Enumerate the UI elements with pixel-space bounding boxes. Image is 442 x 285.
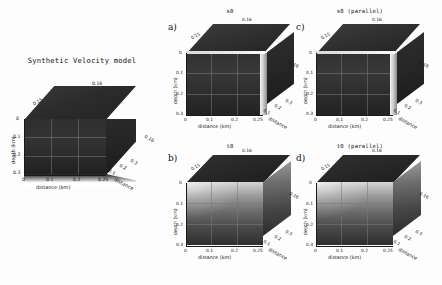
y-tick-label: 0.3: [176, 111, 183, 116]
y-tick-label: 0.1: [176, 70, 183, 75]
y-axis-label: depth (km): [173, 77, 178, 104]
y-axis-label: depth (km): [173, 208, 178, 235]
x-axis-line: [24, 175, 106, 176]
x-tick-label: 0.2: [231, 117, 238, 122]
x-tick-label: 0.2: [361, 248, 368, 253]
y-tick-label: 0.1: [306, 70, 313, 75]
x-tick-label: 0: [314, 248, 317, 253]
x-tick-label: 0.2: [231, 248, 238, 253]
x-axis-line: [186, 246, 263, 247]
y-tick-label: 0: [309, 50, 312, 55]
x-axis-label: distance (km): [198, 124, 231, 129]
top-tick-label-right: 0.16: [242, 148, 252, 153]
top-tick-label-right: 0.16: [242, 17, 252, 22]
top-tick-label-right: 0.16: [372, 148, 382, 153]
panel-title-s0-parallel: s0 (parallel): [290, 8, 430, 14]
panel-letter-a: a): [168, 22, 177, 32]
y-axis-line: [186, 53, 187, 115]
gridline: [211, 182, 212, 245]
cube-notch-seam: [260, 53, 267, 115]
x-axis-label: distance (km): [198, 255, 231, 260]
x-tick-label: 0.1: [336, 248, 343, 253]
y-axis-label: depth (km): [303, 208, 308, 235]
cube-front-face: [186, 182, 263, 245]
y-tick-label: 0.1: [306, 201, 313, 206]
top-tick-label-right: 0.16: [92, 81, 102, 86]
y-axis-label: depth (km): [10, 136, 16, 164]
gridline: [51, 119, 52, 175]
cube-front-face: [316, 182, 393, 245]
panel-title-s0: s0: [160, 8, 300, 14]
panel-letter-c: c): [296, 22, 305, 32]
x-tick-label: 0.25: [383, 248, 393, 253]
panel-title-t0: t0: [160, 143, 300, 149]
gridline: [341, 53, 342, 115]
gridline: [316, 224, 393, 225]
panel-title-velocity-model: Synthetic Velocity model: [6, 56, 158, 65]
x-tick-label: 0.1: [206, 117, 213, 122]
x-axis-line: [316, 115, 393, 116]
panel-s0: a) s0 0.16 0.15 0.16 0 0.1 0.2 0.3 depth…: [160, 8, 300, 143]
gridline: [24, 156, 106, 157]
figure-canvas: Synthetic Velocity model 0.16 0.15 0.16: [0, 0, 442, 285]
gridline: [341, 182, 342, 245]
x-tick-label: 0.2: [361, 117, 368, 122]
x-tick-label: 0.2: [73, 177, 80, 182]
cube-notch-seam: [390, 53, 397, 115]
gridline: [316, 94, 393, 95]
panel-t0: b) t0 0.16 0.15 0.16 0 0.1 0.2 0.3 depth…: [160, 145, 300, 280]
x-axis-line: [316, 246, 393, 247]
panel-letter-b: b): [168, 153, 177, 163]
gridline: [367, 53, 368, 115]
cube-front-face: [24, 119, 106, 175]
panel-t0-parallel: d) t0 (parallel) 0.16 0.15 0.16 0 0.1 0.…: [290, 145, 430, 280]
y-axis-label: depth (km): [303, 77, 308, 104]
x-tick-label: 0: [184, 117, 187, 122]
x-tick-label: 0.1: [206, 248, 213, 253]
y-tick-label: 0.3: [13, 170, 20, 175]
x-tick-label: 0.25: [383, 117, 393, 122]
x-tick-label: 0: [184, 248, 187, 253]
cube-notch-top-edge: [186, 51, 265, 54]
top-tick-label-right: 0.16: [372, 17, 382, 22]
x-tick-label: 0.25: [98, 177, 108, 182]
gridline: [316, 203, 393, 204]
cube-top-face: [24, 86, 136, 120]
x-tick-label: 0.25: [253, 248, 263, 253]
panel-velocity-model: Synthetic Velocity model 0.16 0.15 0.16: [6, 56, 158, 206]
gridline: [186, 224, 263, 225]
y-tick-label: 0.3: [306, 242, 313, 247]
y-tick-label: 0.3: [306, 111, 313, 116]
panel-title-t0-parallel: t0 (parallel): [290, 143, 430, 149]
panel-s0-parallel: c) s0 (parallel) 0.16 0.15 0.16 0 0.1 0.…: [290, 8, 430, 143]
y-tick-label: 0.3: [176, 242, 183, 247]
y-tick-label: 0: [309, 180, 312, 185]
y-tick-label: 0: [16, 116, 19, 121]
x-tick-label: 0.25: [253, 117, 263, 122]
gridline: [316, 73, 393, 74]
y-tick-label: 0: [179, 50, 182, 55]
x-tick-label: 0: [22, 177, 25, 182]
cube-front-face: [316, 53, 393, 115]
gridline: [24, 137, 106, 138]
y-axis-line: [186, 183, 187, 246]
x-axis-label: distance (km): [36, 184, 70, 190]
x-axis-label: distance (km): [328, 124, 361, 129]
y-axis-line: [24, 119, 25, 175]
cube-notch-top-edge: [316, 51, 395, 54]
x-tick-label: 0.1: [336, 117, 343, 122]
gridline: [78, 119, 79, 175]
y-tick-label: 0: [179, 180, 182, 185]
panel-letter-d: d): [296, 153, 305, 163]
x-axis-label: distance (km): [328, 255, 361, 260]
gridline: [237, 53, 238, 115]
y-tick-label: 0.1: [176, 201, 183, 206]
cube-front-face: [186, 53, 263, 115]
x-axis-line: [186, 115, 263, 116]
gridline: [211, 53, 212, 115]
y-axis-line: [316, 53, 317, 115]
x-tick-label: 0: [314, 117, 317, 122]
gridline: [237, 182, 238, 245]
y-axis-line: [316, 183, 317, 246]
gridline: [186, 73, 263, 74]
